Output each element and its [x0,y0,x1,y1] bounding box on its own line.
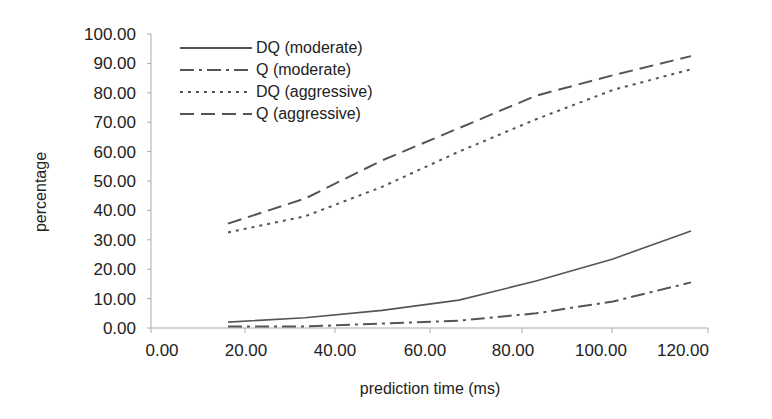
line-chart: 0.0010.0020.0030.0040.0050.0060.0070.008… [0,0,772,419]
x-tick-label: 80.00 [492,341,535,360]
y-tick-label: 90.00 [93,54,136,73]
x-tick-label: 120.00 [657,341,709,360]
x-tick-label: 20.00 [225,341,268,360]
y-axis-label: percentage [32,152,49,232]
series-line [228,56,691,224]
y-tick-label: 100.00 [84,25,136,44]
y-axis-ticks: 0.0010.0020.0030.0040.0050.0060.0070.008… [84,25,151,338]
legend-label: DQ (aggressive) [256,83,372,100]
legend: DQ (moderate)Q (moderate)DQ (aggressive)… [180,39,372,122]
series-line [228,231,691,322]
y-tick-label: 70.00 [93,113,136,132]
y-tick-label: 50.00 [93,172,136,191]
y-tick-label: 30.00 [93,231,136,250]
x-axis-label: prediction time (ms) [360,380,500,397]
x-tick-label: 60.00 [404,341,447,360]
y-tick-label: 10.00 [93,290,136,309]
y-tick-label: 0.00 [103,319,136,338]
series-line [228,282,691,326]
y-tick-label: 40.00 [93,201,136,220]
y-tick-label: 80.00 [93,84,136,103]
x-tick-label: 100.00 [575,341,627,360]
legend-label: Q (aggressive) [256,105,361,122]
x-axis-ticks: 0.0020.0040.0060.0080.00100.00120.00 [145,328,709,360]
legend-label: DQ (moderate) [256,39,363,56]
x-tick-label: 0.00 [145,341,178,360]
legend-label: Q (moderate) [256,61,351,78]
y-tick-label: 20.00 [93,260,136,279]
y-tick-label: 60.00 [93,143,136,162]
x-tick-label: 40.00 [314,341,357,360]
